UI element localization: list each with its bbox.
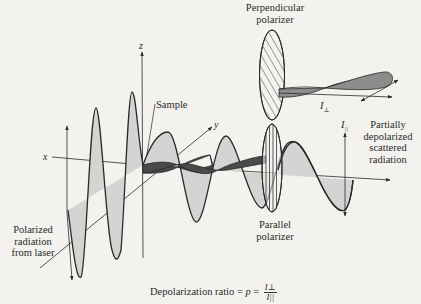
laser-wave — [68, 92, 143, 277]
y-axis-label: y — [214, 119, 218, 130]
sample-label: Sample — [156, 99, 188, 111]
parallel-polarizer-label: Parallel polarizer — [245, 219, 305, 242]
x-axis-label: x — [43, 151, 47, 162]
formula-text: Depolarization ratio = — [150, 286, 245, 297]
z-axis — [142, 52, 143, 258]
scattered-parallel-wave — [143, 132, 353, 222]
z-axis-label: z — [139, 40, 143, 51]
formula-denominator: I|| — [264, 293, 277, 302]
depolarization-formula: Depolarization ratio = p = I⊥I|| — [150, 283, 277, 302]
i-perp-arrow — [361, 89, 383, 101]
i-par-label: I|| — [341, 119, 348, 135]
perpendicular-polarizer — [255, 28, 290, 123]
scattered-label: Partially depolarized scattered radiatio… — [358, 119, 418, 165]
i-perp-label: I⊥ — [320, 100, 330, 116]
formula-fraction: I⊥I|| — [264, 283, 277, 302]
perpendicular-polarizer-label: Perpendicular polarizer — [245, 2, 305, 25]
laser-label: Polarized radiation from laser — [8, 224, 58, 259]
